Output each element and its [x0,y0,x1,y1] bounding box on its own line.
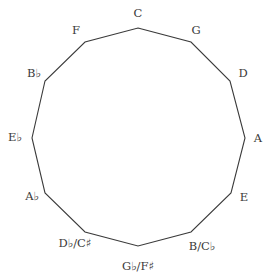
key-label-a: A [253,131,263,145]
key-label-b-cflat: B/C♭ [189,239,216,253]
key-labels: C G D A E B/C♭ G♭/F♯ D♭/C♯ A♭ E♭ B♭ F [8,6,263,273]
key-label-gflat-fsharp: G♭/F♯ [122,259,154,273]
key-label-f: F [72,23,80,37]
key-label-dflat-csharp: D♭/C♯ [59,236,92,250]
key-label-g: G [191,23,200,37]
dodecagon-outline [32,28,245,246]
key-label-e: E [240,190,248,204]
key-label-bflat: B♭ [27,66,41,80]
circle-of-fifths-diagram: C G D A E B/C♭ G♭/F♯ D♭/C♯ A♭ E♭ B♭ F [0,0,268,276]
key-label-eflat: E♭ [8,130,22,144]
key-label-d: D [238,66,247,80]
key-label-c: C [134,6,143,20]
key-label-aflat: A♭ [24,189,39,203]
